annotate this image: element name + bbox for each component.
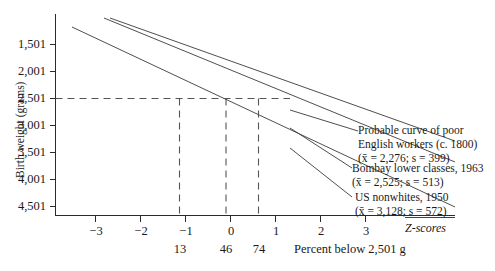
x-axis-title: Z-scores	[405, 221, 446, 235]
x-tick-label-neg3: −3	[81, 224, 111, 239]
percent-marker-74: 74	[244, 242, 274, 257]
leader-line-bombay	[290, 128, 352, 168]
x-tick-label-3: 3	[351, 224, 381, 239]
annotation-us-nonwhites: US nonwhites, 1950 (x̄ = 3,128; s = 572)	[355, 190, 449, 218]
y-tick-label-4501: 4,501	[0, 199, 46, 214]
annotation-bombay: Bombay lower classes, 1963 (x̄ = 2,525; …	[352, 161, 484, 189]
y-axis-ticks	[50, 45, 56, 207]
percent-marker-13: 13	[165, 242, 195, 257]
annotation-us-stats: (x̄ = 3,128; s = 572)	[355, 204, 449, 218]
birth-weight-z-score-chart: Birth weight (grams) 1,501 2,001 2,501 3…	[0, 0, 495, 271]
leader-line-us	[290, 148, 352, 197]
annotation-bombay-stats: (x̄ = 2,525; s = 513)	[352, 175, 484, 189]
x-tick-label-2: 2	[306, 224, 336, 239]
y-tick-label-4001: 4,001	[0, 172, 46, 187]
annotation-english-line2: English workers (c. 1800)	[358, 137, 477, 151]
x-tick-label-1: 1	[261, 224, 291, 239]
percent-drop-lines	[180, 99, 259, 216]
y-tick-label-1501: 1,501	[0, 37, 46, 52]
x-tick-label-neg1: −1	[171, 224, 201, 239]
leader-line-english	[290, 110, 358, 131]
percent-axis-caption: Percent below 2,501 g	[294, 242, 406, 257]
annotation-bombay-line1: Bombay lower classes, 1963	[352, 161, 484, 175]
annotation-english-line1: Probable curve of poor	[358, 123, 477, 137]
annotation-leader-lines	[290, 110, 358, 197]
x-tick-label-0: 0	[216, 224, 246, 239]
x-tick-label-neg2: −2	[126, 224, 156, 239]
percent-marker-46: 46	[211, 242, 241, 257]
y-tick-label-2501: 2,501	[0, 91, 46, 106]
y-tick-label-3001: 3,001	[0, 118, 46, 133]
y-tick-label-3501: 3,501	[0, 145, 46, 160]
x-axis-ticks	[96, 216, 366, 223]
y-tick-label-2001: 2,001	[0, 64, 46, 79]
annotation-english-workers: Probable curve of poor English workers (…	[358, 123, 477, 165]
annotation-us-line1: US nonwhites, 1950	[355, 190, 449, 204]
